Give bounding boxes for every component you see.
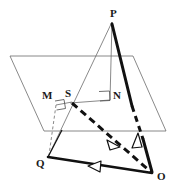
vertex-label-O: O — [157, 171, 166, 182]
segment-PN — [110, 22, 112, 100]
geometry-figure: P Q O S M N — [0, 0, 179, 191]
vertex-label-S: S — [65, 88, 71, 99]
segment-QP-stub — [48, 130, 62, 157]
vertex-label-N: N — [113, 90, 121, 101]
vertex-label-M: M — [42, 90, 52, 101]
segment-PQ — [48, 22, 112, 157]
vertex-label-Q: Q — [36, 158, 45, 169]
geometry-canvas — [0, 0, 179, 191]
vertex-label-P: P — [110, 8, 117, 19]
segment-MS — [56, 102, 72, 105]
arrow-on-PO — [132, 133, 142, 148]
cutting-plane — [10, 56, 166, 131]
right-angle-mark-at-N — [99, 91, 110, 101]
